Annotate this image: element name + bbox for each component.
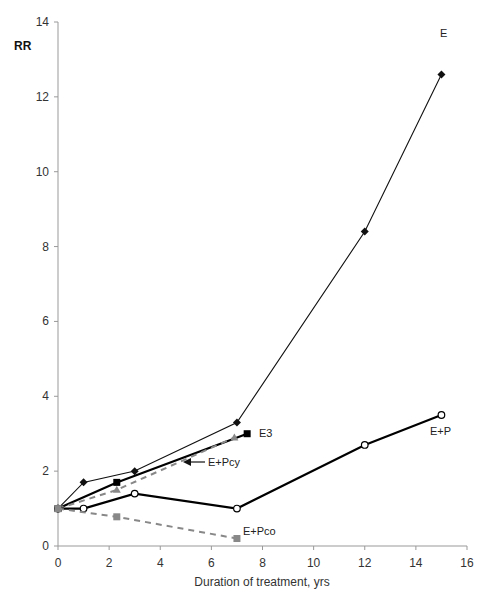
circle-marker	[361, 442, 368, 449]
axes: 024681012140246810121416	[36, 15, 474, 570]
x-tick-label: 0	[55, 556, 62, 570]
x-tick-label: 4	[157, 556, 164, 570]
x-tick-label: 10	[307, 556, 321, 570]
series-group	[54, 70, 445, 542]
diamond-marker	[437, 70, 445, 78]
square-marker	[113, 513, 120, 520]
diamond-marker	[233, 418, 241, 426]
y-tick-label: 10	[36, 165, 50, 179]
circle-marker	[438, 412, 445, 419]
circle-marker	[234, 505, 241, 512]
y-tick-label: 12	[36, 90, 50, 104]
square-marker	[233, 535, 240, 542]
circle-marker	[131, 490, 138, 497]
x-tick-label: 8	[259, 556, 266, 570]
series-label: E+P	[430, 425, 451, 437]
y-tick-label: 6	[42, 314, 49, 328]
y-tick-label: 8	[42, 240, 49, 254]
y-tick-label: 2	[42, 464, 49, 478]
series-label: E3	[259, 427, 272, 439]
series-e-p	[55, 412, 445, 512]
square-marker	[55, 505, 62, 512]
x-tick-label: 6	[208, 556, 215, 570]
series-label: E+Pco	[243, 525, 276, 537]
y-tick-label: 14	[36, 15, 50, 29]
y-axis-label: RR	[14, 39, 32, 53]
series-label: E	[440, 27, 447, 39]
diamond-marker	[361, 228, 369, 236]
x-axis-label: Duration of treatment, yrs	[194, 575, 329, 589]
line-chart: 024681012140246810121416 EE3E+PcyE+PE+Pc…	[0, 0, 488, 607]
series-labels: EE3E+PcyE+PE+Pco	[183, 27, 451, 537]
x-tick-label: 16	[460, 556, 474, 570]
square-marker	[244, 430, 251, 437]
x-tick-label: 14	[409, 556, 423, 570]
x-tick-label: 12	[358, 556, 372, 570]
triangle-marker	[113, 486, 121, 493]
x-tick-label: 2	[106, 556, 113, 570]
series-label: E+Pcy	[208, 456, 241, 468]
y-tick-label: 4	[42, 389, 49, 403]
square-marker	[113, 479, 120, 486]
series-e	[54, 70, 445, 512]
y-tick-label: 0	[42, 539, 49, 553]
